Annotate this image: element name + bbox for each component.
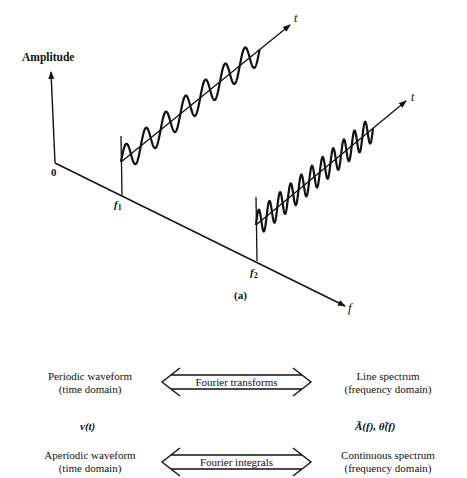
f2-amplitude-line [256, 197, 257, 261]
waveform-f1 [121, 47, 260, 164]
f2-label: f2 [250, 266, 258, 280]
origin-label: 0 [51, 166, 57, 178]
time-axis-f1 [121, 25, 290, 162]
arrow-label: Fourier transforms [158, 376, 315, 388]
left-line2: (time domain) [20, 383, 160, 396]
frequency-axis-label: f [348, 300, 352, 316]
continuous-spectrum-label: Continuous spectrum (frequency domain) [318, 449, 458, 475]
right-line1: Line spectrum [318, 370, 458, 383]
spectrum-function-symbol: Ã(f), θ̃(f) [355, 420, 396, 432]
aperiodic-waveform-label: Aperiodic waveform (time domain) [20, 449, 160, 475]
time-function-symbol: v(t) [80, 420, 95, 432]
left-line2: (time domain) [20, 462, 160, 475]
periodic-waveform-label: Periodic waveform (time domain) [20, 370, 160, 396]
waveform-f2 [256, 122, 373, 232]
left-line1: Periodic waveform [20, 370, 160, 383]
f1-label: f1 [114, 198, 122, 212]
figure-caption: (a) [234, 289, 247, 301]
right-line1: Continuous spectrum [318, 449, 458, 462]
time-axis-label-f2: t [411, 90, 414, 105]
fourier-transforms-arrow: Fourier transforms [158, 366, 315, 398]
right-line2: (frequency domain) [318, 383, 458, 396]
three-d-spectrum-diagram: Amplitude 0 f1 f2 f t t (a) [0, 0, 467, 340]
left-line1: Aperiodic waveform [20, 449, 160, 462]
f1-amplitude-line [121, 136, 122, 195]
frequency-axis [55, 163, 345, 306]
arrow-label: Fourier integrals [158, 456, 315, 468]
amplitude-axis-label: Amplitude [22, 51, 74, 63]
time-axis-label-f1: t [294, 11, 297, 26]
line-spectrum-label: Line spectrum (frequency domain) [318, 370, 458, 396]
amplitude-axis [51, 72, 55, 163]
fourier-integrals-arrow: Fourier integrals [158, 446, 315, 478]
right-line2: (frequency domain) [318, 462, 458, 475]
